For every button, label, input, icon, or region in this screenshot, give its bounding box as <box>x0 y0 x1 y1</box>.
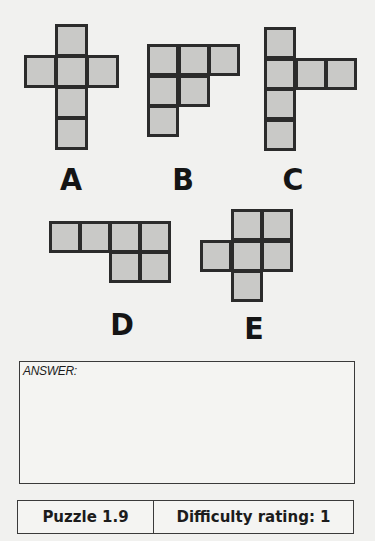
shape-cell <box>264 27 296 59</box>
shape-cell <box>139 221 171 253</box>
shape-cell <box>325 58 357 90</box>
shape-cell <box>109 251 141 283</box>
shape-label-d: D <box>103 310 141 340</box>
puzzle-number: Puzzle 1.9 <box>18 501 154 533</box>
shape-cell <box>147 105 179 137</box>
difficulty-rating: Difficulty rating: 1 <box>154 501 353 533</box>
answer-box[interactable]: ANSWER: <box>19 361 355 484</box>
shape-cell <box>261 240 293 272</box>
shape-cell <box>264 58 296 90</box>
shape-cell <box>79 221 111 253</box>
shape-cell <box>178 44 210 76</box>
shape-cell <box>139 251 171 283</box>
shape-cell <box>86 55 119 88</box>
shape-cell <box>178 75 210 107</box>
shape-cell <box>231 209 263 241</box>
shape-label-e: E <box>235 314 273 344</box>
shape-cell <box>147 44 179 76</box>
answer-label: ANSWER: <box>23 364 77 378</box>
shape-cell <box>49 221 81 253</box>
shape-cell <box>55 117 88 150</box>
shape-cell <box>55 86 88 119</box>
shape-label-c: C <box>274 165 312 195</box>
shape-cell <box>147 75 179 107</box>
shape-label-a: A <box>52 165 90 195</box>
shape-cell <box>231 240 263 272</box>
puzzle-info-table: Puzzle 1.9 Difficulty rating: 1 <box>17 500 354 534</box>
shape-cell <box>261 209 293 241</box>
shape-cell <box>55 24 88 57</box>
shape-cell <box>109 221 141 253</box>
shape-cell <box>200 240 232 272</box>
shape-cell <box>208 44 240 76</box>
shape-cell <box>55 55 88 88</box>
shape-cell <box>295 58 327 90</box>
shape-cell <box>264 88 296 120</box>
shape-cell <box>24 55 57 88</box>
shape-label-b: B <box>164 165 202 195</box>
shape-cell <box>231 270 263 302</box>
shape-cell <box>264 119 296 151</box>
